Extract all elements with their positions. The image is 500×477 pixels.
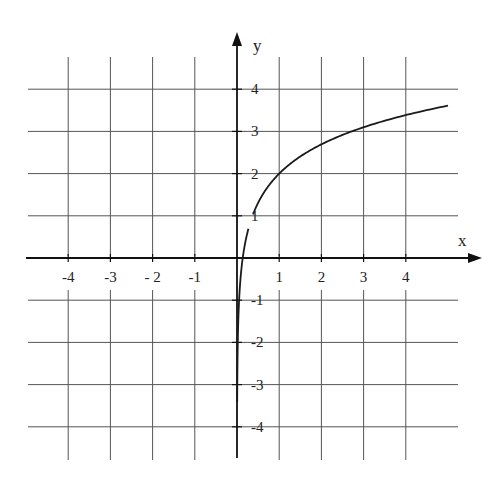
x-axis-arrow-icon — [468, 253, 482, 263]
function-graph: -4-3- 2-11234-4-3-2-11234 x y — [0, 0, 500, 477]
x-tick-label: -4 — [62, 269, 75, 285]
x-axis-label: x — [458, 231, 467, 250]
y-tick-label: -3 — [251, 377, 264, 393]
x-tick-label: -3 — [104, 269, 117, 285]
x-tick-label: -1 — [189, 269, 202, 285]
y-tick-label: -4 — [251, 419, 264, 435]
y-tick-label: 4 — [251, 81, 259, 97]
y-tick-label: -1 — [251, 292, 264, 308]
x-tick-label: 1 — [275, 269, 283, 285]
x-tick-label: 4 — [402, 269, 410, 285]
y-axis-label: y — [253, 36, 262, 55]
y-tick-label: 2 — [251, 166, 259, 182]
curve-2-plus-ln-x — [237, 106, 448, 402]
y-axis-arrow-icon — [232, 32, 242, 46]
y-tick-label: -2 — [251, 334, 264, 350]
y-tick-label: 3 — [251, 123, 259, 139]
x-tick-label: - 2 — [144, 269, 160, 285]
x-tick-label: 3 — [360, 269, 368, 285]
x-tick-label: 2 — [318, 269, 326, 285]
